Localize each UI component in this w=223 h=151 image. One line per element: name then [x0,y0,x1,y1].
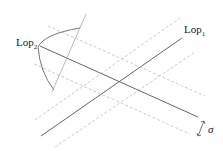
lop2-lower-bound [34,64,190,134]
lop2-line [40,46,198,117]
lop1-label: Lop1 [184,24,205,38]
lop2-curve [38,28,80,90]
lop1-line [41,38,182,136]
tangent-line [52,14,86,92]
sigma-label: σ [208,124,213,135]
sigma-arrow-icon [197,121,205,136]
lop1-lower-bound [55,52,195,147]
lop2-label: Lop2 [16,37,37,51]
